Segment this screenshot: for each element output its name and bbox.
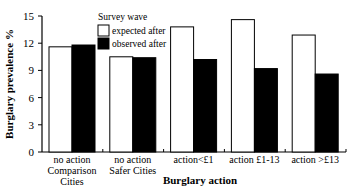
category-label: no action [54, 154, 91, 165]
bar-observed [72, 45, 95, 152]
bars [49, 20, 338, 152]
category-label: Safer Cities [109, 165, 156, 176]
bar-expected [110, 57, 133, 152]
y-axis: 03691215 [23, 10, 42, 158]
bar-expected [292, 35, 315, 152]
bar-observed [315, 74, 338, 152]
category-label: action<£1 [174, 154, 214, 165]
y-tick-label: 0 [29, 146, 35, 158]
bar-expected [231, 20, 254, 152]
y-tick-label: 12 [23, 37, 34, 49]
bar-observed [254, 69, 277, 152]
bar-observed [133, 58, 156, 152]
legend-swatch-observed [98, 38, 109, 49]
legend-label-expected: expected after [112, 26, 166, 36]
bar-expected [49, 47, 72, 152]
bar-chart: 03691215 no actionComparisonCitiesno act… [0, 0, 363, 191]
y-tick-label: 6 [29, 92, 35, 104]
legend-swatch-expected [98, 25, 109, 36]
x-axis-title: Burglary action [163, 174, 237, 186]
category-label: action >£13 [291, 154, 339, 165]
category-label: Cities [60, 176, 83, 187]
y-axis-title: Burglary prevalence % [3, 29, 15, 139]
category-label: action £1-13 [229, 154, 279, 165]
y-tick-label: 3 [29, 119, 35, 131]
bar-observed [194, 60, 217, 152]
legend-label-observed: observed after [112, 39, 167, 49]
y-tick-label: 15 [23, 10, 35, 22]
category-label: no action [114, 154, 151, 165]
legend: Survey wave expected after observed afte… [98, 12, 167, 49]
legend-title: Survey wave [98, 12, 147, 22]
category-label: Comparison [48, 165, 97, 176]
bar-expected [171, 27, 194, 152]
y-tick-label: 9 [29, 64, 35, 76]
